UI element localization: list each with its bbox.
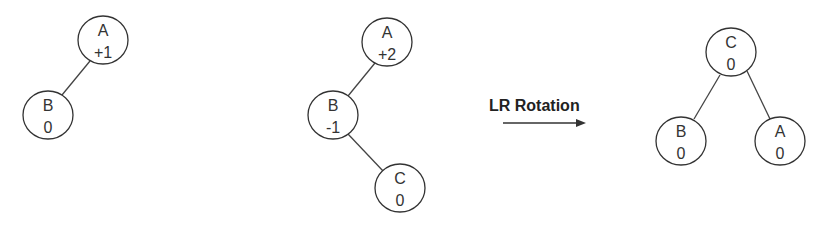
node-b-key: B bbox=[676, 123, 687, 140]
node-a-balance: +2 bbox=[378, 46, 396, 63]
node-b-balance: 0 bbox=[677, 145, 686, 162]
node-c: C 0 bbox=[375, 164, 425, 212]
node-c: C 0 bbox=[706, 28, 756, 76]
node-c-key: C bbox=[394, 170, 406, 187]
node-b: B -1 bbox=[308, 91, 358, 139]
edge-c-a bbox=[747, 71, 770, 119]
lr-rotation-label: LR Rotation bbox=[489, 97, 580, 114]
tree-2: A +2 B -1 C 0 bbox=[308, 18, 425, 212]
node-b-key: B bbox=[43, 97, 54, 114]
node-a: A 0 bbox=[755, 117, 805, 165]
node-a-balance: +1 bbox=[94, 44, 112, 61]
avl-rotation-diagram: A +1 B 0 A +2 B -1 C 0 LR Rotation bbox=[0, 0, 834, 228]
node-a-key: A bbox=[382, 24, 393, 41]
arrow-right-icon bbox=[576, 119, 586, 127]
edge-b-c bbox=[348, 134, 384, 172]
node-b: B 0 bbox=[23, 91, 73, 139]
node-a: A +1 bbox=[78, 16, 128, 64]
node-b-balance: -1 bbox=[326, 119, 340, 136]
node-a-key: A bbox=[98, 22, 109, 39]
node-b: B 0 bbox=[656, 117, 706, 165]
tree-1: A +1 B 0 bbox=[23, 16, 128, 139]
edge-c-b bbox=[694, 75, 720, 119]
tree-3: C 0 B 0 A 0 bbox=[656, 28, 805, 165]
node-c-balance: 0 bbox=[727, 56, 736, 73]
node-c-key: C bbox=[725, 34, 737, 51]
edge-a-b bbox=[62, 61, 90, 95]
lr-rotation-transition: LR Rotation bbox=[489, 97, 586, 127]
node-a-key: A bbox=[775, 123, 786, 140]
node-b-key: B bbox=[328, 97, 339, 114]
node-a-balance: 0 bbox=[776, 145, 785, 162]
node-b-balance: 0 bbox=[44, 119, 53, 136]
node-c-balance: 0 bbox=[396, 192, 405, 209]
node-a: A +2 bbox=[362, 18, 412, 66]
edge-a-b bbox=[348, 63, 375, 96]
